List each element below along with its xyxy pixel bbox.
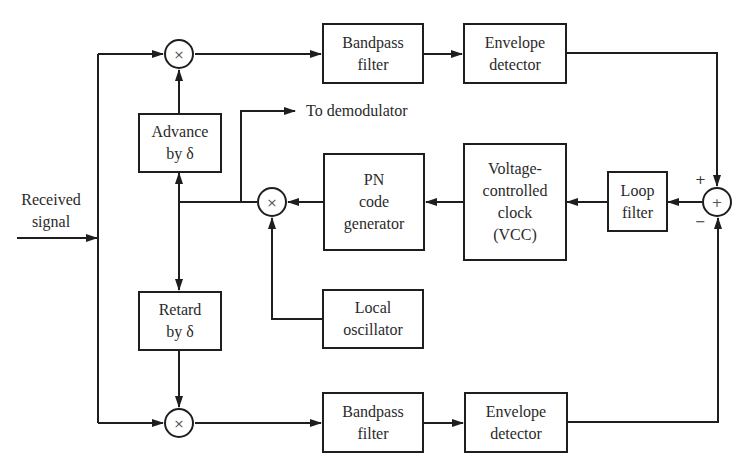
vcc-line4: (VCC)	[493, 224, 537, 246]
bandpass-top-line1: Bandpass	[342, 32, 403, 54]
multiply-icon: ×	[267, 196, 278, 209]
summer-node: +	[702, 187, 732, 217]
voltage-controlled-clock: Voltage- controlled clock (VCC)	[463, 143, 567, 261]
local-oscillator-line1: Local	[355, 297, 391, 319]
multiply-icon: ×	[174, 417, 185, 430]
pn-line3: generator	[344, 213, 404, 235]
bandpass-filter-bottom: Bandpass filter	[322, 392, 424, 453]
mixer-bottom: ×	[164, 408, 194, 438]
pn-line2: code	[359, 191, 389, 213]
advance-block: Advance by δ	[138, 113, 222, 173]
plus-icon: +	[712, 196, 723, 209]
summer-plus-sign: +	[695, 173, 706, 186]
to-demodulator-label: To demodulator	[306, 100, 408, 122]
mixer-middle: ×	[257, 187, 287, 217]
advance-line2: by δ	[166, 143, 194, 165]
pn-code-generator: PN code generator	[323, 153, 425, 251]
pn-line1: PN	[364, 169, 384, 191]
vcc-line2: controlled	[483, 180, 548, 202]
vcc-line1: Voltage-	[488, 158, 542, 180]
bandpass-bottom-line2: filter	[357, 423, 388, 445]
loop-filter-line1: Loop	[621, 180, 655, 202]
bandpass-top-line2: filter	[357, 54, 388, 76]
received-signal-line1: Received	[17, 189, 85, 211]
envelope-top-line1: Envelope	[485, 32, 545, 54]
loop-filter: Loop filter	[607, 171, 668, 232]
retard-line2: by δ	[166, 321, 194, 343]
loop-filter-line2: filter	[622, 202, 653, 224]
envelope-bottom-line2: detector	[490, 423, 542, 445]
vcc-line3: clock	[498, 202, 533, 224]
bandpass-filter-top: Bandpass filter	[322, 23, 424, 84]
local-oscillator-line2: oscillator	[343, 319, 403, 341]
received-signal-line2: signal	[17, 211, 85, 233]
envelope-detector-top: Envelope detector	[463, 23, 567, 84]
bandpass-bottom-line1: Bandpass	[342, 401, 403, 423]
summer-minus-sign: −	[695, 215, 706, 228]
retard-line1: Retard	[159, 299, 202, 321]
mixer-top: ×	[164, 39, 194, 69]
retard-block: Retard by δ	[138, 291, 222, 351]
multiply-icon: ×	[174, 48, 185, 61]
tracking-loop-diagram: Received signal To demodulator × × × + +…	[0, 0, 741, 464]
received-signal-label: Received signal	[17, 189, 85, 233]
advance-line1: Advance	[152, 121, 209, 143]
local-oscillator: Local oscillator	[322, 289, 424, 349]
envelope-detector-bottom: Envelope detector	[464, 392, 568, 453]
envelope-bottom-line1: Envelope	[486, 401, 546, 423]
envelope-top-line2: detector	[489, 54, 541, 76]
